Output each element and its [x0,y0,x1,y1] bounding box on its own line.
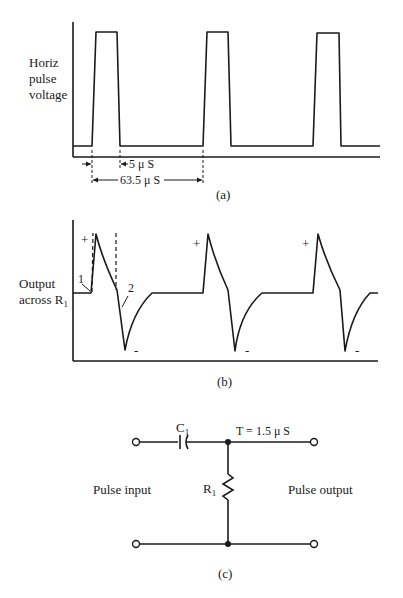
caption-a: (a) [216,187,230,203]
ylabel-line-3: voltage [29,87,67,103]
period-label: 63.5 μ S [120,173,160,188]
pulse-output-label: Pulse output [288,482,353,497]
plus-2: + [193,236,200,251]
caption-b: (b) [217,374,232,390]
ylabel-line-2: pulse [29,71,67,87]
output-terminal-bottom [311,541,318,548]
input-terminal-top [133,439,140,446]
minus-2: - [245,343,249,358]
output-terminal-top [311,439,318,446]
horiz-pulse-ylabel: Horiz pulse voltage [29,55,67,103]
ylabel-sub: 1 [63,299,68,309]
ylabel-output: Output [19,276,68,292]
resistor-label: R1 [203,481,216,501]
marker-2: 2 [128,281,134,296]
marker-1: 1 [78,272,84,287]
caption-c: (c) [218,566,232,582]
minus-1: - [134,343,138,358]
time-constant-label: T = 1.5 μ S [236,424,290,439]
ylabel-line-1: Horiz [29,55,67,71]
capacitor-label: C1 [176,420,189,440]
minus-3: - [355,343,359,358]
output-ylabel: Output across R1 [19,276,68,312]
plus-3: + [302,236,309,251]
plus-1: + [81,232,88,247]
pulse-input-label: Pulse input [93,482,151,497]
pulse-width-label: 5 μ S [129,157,154,172]
input-terminal-bottom [133,541,140,548]
ylabel-across: across R [19,292,63,307]
